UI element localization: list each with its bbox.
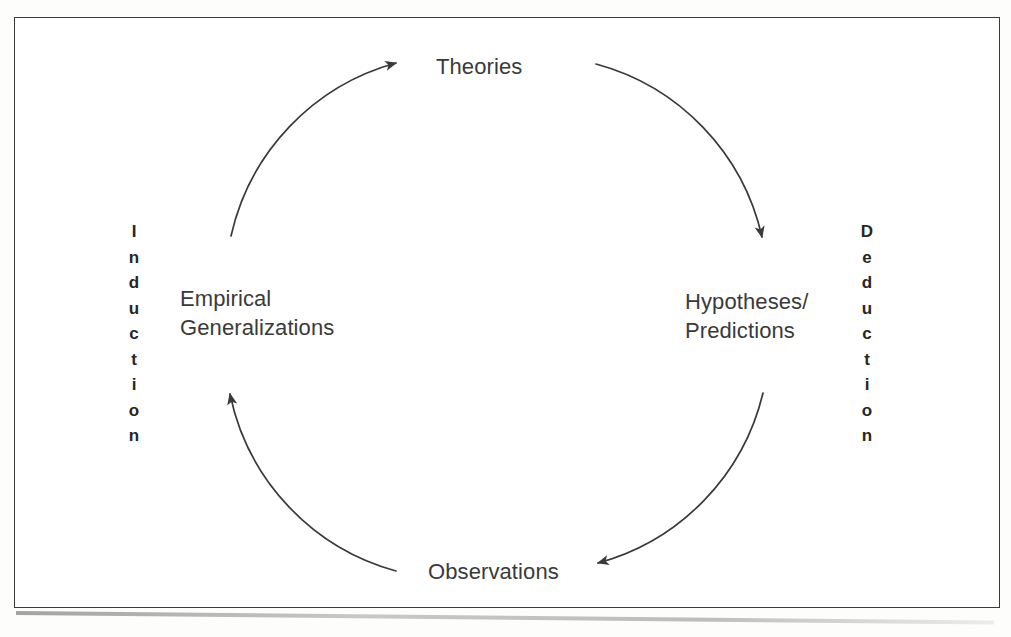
caption-letter: i	[850, 372, 884, 398]
arrow-hypotheses-to-observations	[598, 393, 763, 563]
caption-letter: e	[850, 245, 884, 271]
node-label-hypotheses-predictions: Hypotheses/ Predictions	[685, 287, 945, 345]
caption-letter: u	[117, 296, 151, 322]
node-label-theories: Theories	[436, 52, 656, 81]
caption-letter: t	[850, 347, 884, 373]
arrow-observations-to-empirical	[230, 394, 396, 571]
side-caption-deduction: Deduction	[850, 219, 884, 449]
arrow-theories-to-hypotheses	[596, 64, 762, 237]
caption-letter: u	[850, 296, 884, 322]
caption-letter: o	[117, 398, 151, 424]
arrow-empirical-to-theories	[231, 63, 396, 236]
caption-letter: o	[850, 398, 884, 424]
caption-letter: c	[850, 321, 884, 347]
caption-letter: t	[117, 347, 151, 373]
caption-letter: n	[117, 245, 151, 271]
node-label-observations: Observations	[428, 557, 688, 586]
caption-letter: c	[117, 321, 151, 347]
caption-letter: d	[850, 270, 884, 296]
caption-letter: n	[850, 423, 884, 449]
scientific-method-cycle-figure: Theories Hypotheses/ Predictions Observa…	[0, 0, 1011, 637]
caption-letter: d	[117, 270, 151, 296]
caption-letter: n	[117, 423, 151, 449]
side-caption-induction: Induction	[117, 219, 151, 449]
caption-letter: i	[117, 372, 151, 398]
caption-letter: D	[850, 219, 884, 245]
node-label-empirical-generalizations: Empirical Generalizations	[180, 284, 480, 342]
caption-letter: I	[117, 219, 151, 245]
